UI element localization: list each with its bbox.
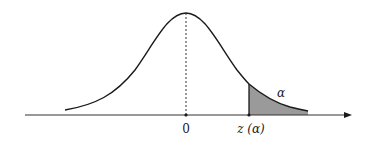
critical-value-label: z (α) (236, 122, 265, 136)
x-axis-arrow-icon (344, 112, 352, 118)
normal-curve-diagram: 0 z (α) α (0, 0, 366, 148)
critical-value-point (247, 113, 250, 116)
mean-point (184, 113, 187, 116)
mean-label: 0 (182, 122, 190, 136)
tail-area-label: α (277, 86, 285, 100)
